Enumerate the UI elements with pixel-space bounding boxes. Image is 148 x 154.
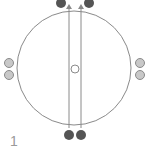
right-dot-top: [136, 59, 145, 68]
bottom-dot-right: [76, 130, 86, 140]
left-dot-bottom: [5, 71, 14, 80]
right-dot-bottom: [136, 71, 145, 80]
left-dot-top: [5, 59, 14, 68]
top-dot-right: [84, 0, 94, 8]
arrowhead-left-icon: [66, 4, 72, 9]
figure-label: 1: [10, 134, 18, 148]
bottom-dot-left: [64, 130, 74, 140]
center-marker: [71, 65, 79, 73]
diagram-canvas: [0, 0, 148, 154]
arrowhead-right-icon: [78, 4, 84, 9]
top-dot-left: [56, 0, 66, 8]
